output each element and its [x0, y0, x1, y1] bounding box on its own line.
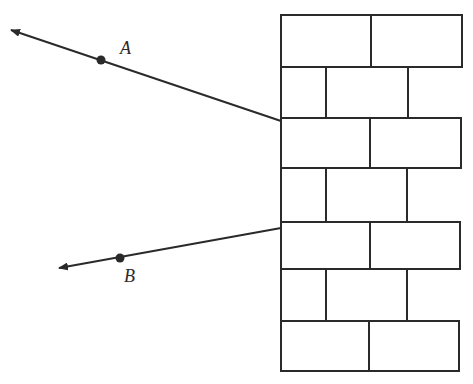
brick-wall	[281, 15, 462, 371]
ray-a	[11, 30, 281, 121]
label-point-a: A	[120, 38, 131, 59]
label-point-b: B	[124, 266, 135, 287]
ray-a-point	[97, 56, 106, 65]
brick-row	[281, 222, 460, 269]
brick-row	[281, 321, 459, 371]
brick-row	[281, 118, 461, 168]
brick-row	[281, 269, 407, 321]
brick-row	[281, 168, 407, 222]
ray-b	[59, 228, 281, 268]
brick-row	[281, 15, 462, 67]
diagram-canvas	[0, 0, 473, 384]
brick-row	[281, 67, 408, 118]
ray-b-point	[116, 254, 125, 263]
